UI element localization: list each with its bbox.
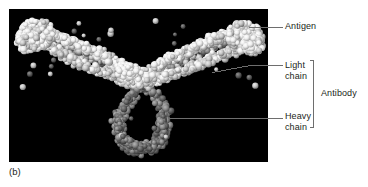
antibody-space-filling-model <box>9 9 268 162</box>
label-heavy-chain: Heavy chain <box>285 111 311 132</box>
label-antigen: Antigen <box>285 21 316 32</box>
label-light-chain: Light chain <box>285 60 307 81</box>
figure-caption: (b) <box>9 166 21 177</box>
figure-panel-b: Antigen Light chain Heavy chain Antibody… <box>0 0 368 187</box>
antibody-micrograph-panel <box>9 9 268 162</box>
label-antibody: Antibody <box>321 88 357 99</box>
